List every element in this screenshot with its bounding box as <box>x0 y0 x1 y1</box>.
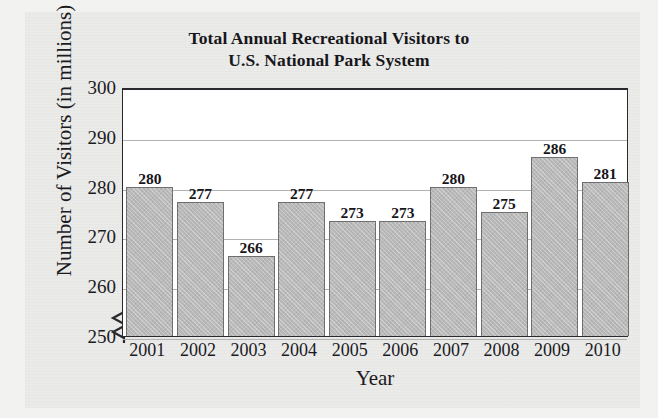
bar-series: 280277266277273273280275286281 <box>123 90 627 336</box>
x-axis-title: Year <box>122 366 628 391</box>
y-tick-label: 300 <box>72 77 116 99</box>
bar-value-label-2007: 280 <box>422 170 485 188</box>
bar-2010[interactable] <box>582 182 629 336</box>
bar-2007[interactable] <box>430 187 477 336</box>
chart-title: Total Annual Recreational Visitors to U.… <box>0 27 658 71</box>
y-tick-label: 290 <box>72 126 116 148</box>
bar-2004[interactable] <box>278 202 325 336</box>
bar-value-label-2008: 275 <box>473 195 536 213</box>
bar-chart-figure: Total Annual Recreational Visitors to U.… <box>0 0 658 418</box>
bar-value-label-2003: 266 <box>220 239 283 257</box>
bar-2001[interactable] <box>126 187 173 336</box>
bar-value-label-2010: 281 <box>574 165 637 183</box>
bar-value-label-2009: 286 <box>523 140 586 158</box>
y-tick-label: 260 <box>72 276 116 298</box>
bar-2006[interactable] <box>379 221 426 336</box>
x-axis-tick-labels: 2001200220032004200520062007200820092010 <box>122 340 628 366</box>
bar-2002[interactable] <box>177 202 224 336</box>
chart-title-line-2: U.S. National Park System <box>0 49 658 71</box>
chart-title-line-1: Total Annual Recreational Visitors to <box>189 28 470 48</box>
bar-2005[interactable] <box>329 221 376 336</box>
bar-2009[interactable] <box>531 157 578 336</box>
bar-value-label-2004: 277 <box>270 185 333 203</box>
plot-area: 280277266277273273280275286281 <box>122 88 628 337</box>
bar-2008[interactable] <box>481 212 528 337</box>
y-tick-label: 280 <box>72 176 116 198</box>
bar-value-label-2002: 277 <box>169 185 232 203</box>
y-tick-label: 270 <box>72 226 116 248</box>
bar-2003[interactable] <box>228 256 275 336</box>
bar-value-label-2006: 273 <box>371 204 434 222</box>
x-tick-label-2010: 2010 <box>573 340 632 361</box>
